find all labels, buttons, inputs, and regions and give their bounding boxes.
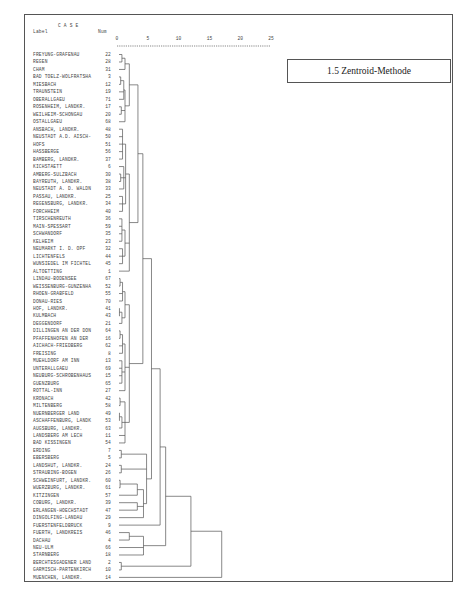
axis-tick-label: 20 — [237, 36, 243, 41]
axis-tick-label: 15 — [207, 36, 213, 41]
axis-tick-label: 25 — [268, 36, 274, 41]
dendrogram-tree: 0510152025 — [0, 0, 475, 611]
axis-tick-label: 5 — [146, 36, 149, 41]
axis-tick-label: 0 — [116, 36, 119, 41]
axis-tick-label: 10 — [176, 36, 182, 41]
